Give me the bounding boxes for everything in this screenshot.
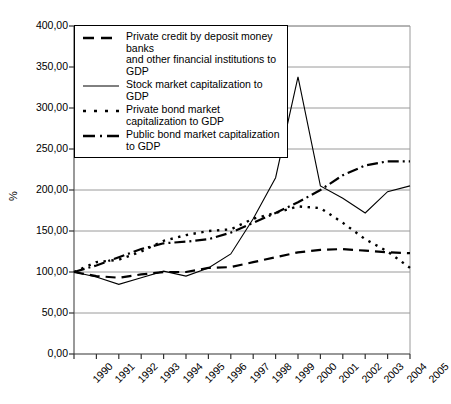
dotted-line-swatch (79, 104, 123, 118)
x-axis-tick-label: 1997 (247, 360, 272, 385)
legend-item: Public bond market capitalization to GDP (79, 128, 282, 153)
legend-item-label: Public bond market capitalization to GDP (123, 129, 282, 152)
x-axis-tick-label: 1998 (269, 360, 294, 385)
x-axis-tick-label: 1995 (202, 360, 227, 385)
legend-item-label: Stock market capitalization to GDP (123, 79, 282, 102)
legend-item: Private credit by deposit money banks an… (79, 30, 282, 78)
dash-dot-line-swatch (79, 129, 123, 143)
x-axis-tick-label: 1999 (291, 360, 316, 385)
legend-item: Private bond market capitalization to GD… (79, 103, 282, 128)
x-axis-tick-label: 2004 (403, 360, 428, 385)
dashed-line-swatch (79, 31, 123, 45)
x-axis-tick-label: 1990 (90, 360, 115, 385)
chart-legend: Private credit by deposit money banks an… (74, 25, 288, 158)
x-axis-tick-label: 2003 (381, 360, 406, 385)
legend-item: Stock market capitalization to GDP (79, 78, 282, 103)
legend-label-line2: and other financial institutions to GDP (126, 53, 276, 77)
x-axis-tick-label: 1993 (157, 360, 182, 385)
x-axis-tick-label: 1992 (135, 360, 160, 385)
x-axis-tick-label: 2001 (336, 360, 361, 385)
legend-item-label: Private credit by deposit money banks an… (123, 31, 282, 77)
x-axis-tick-label: 1991 (112, 360, 137, 385)
solid-line-swatch (79, 79, 123, 93)
x-axis-tick-label: 1996 (224, 360, 249, 385)
legend-item-label: Private bond market capitalization to GD… (123, 104, 282, 127)
x-axis-tick-label: 2002 (359, 360, 384, 385)
x-axis-tick-label: 2000 (314, 360, 339, 385)
x-axis-tick-label: 1994 (179, 360, 204, 385)
x-axis-tick-label: 2005 (426, 360, 451, 385)
legend-label-line1: Private credit by deposit money banks (126, 30, 273, 54)
